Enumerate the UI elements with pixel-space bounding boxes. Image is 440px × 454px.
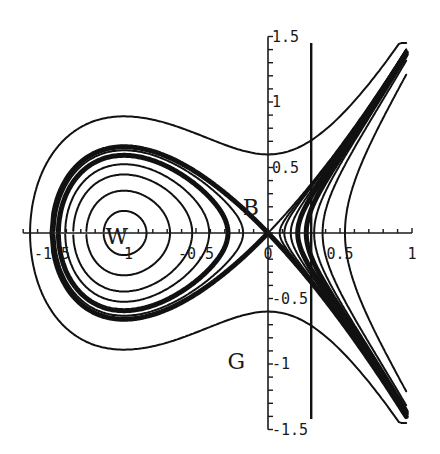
x-tick-label: 0.5 [326,245,353,263]
y-tick-label: -0.5 [272,290,308,308]
point-label-w: W [105,224,128,249]
x-tick-label: -1.5 [34,245,70,263]
x-tick-label: 0 [263,245,272,263]
y-tick-label: 1 [272,93,281,111]
x-tick-label: 1 [407,245,416,263]
separatrix-branch-up [268,49,406,233]
y-tick-label: 1.5 [272,28,299,46]
point-label-b: B [243,195,259,220]
axes: -1.5-1-0.500.511.510.5-0.5-1-1.5 [23,28,416,439]
y-tick-label: 0.5 [272,159,299,177]
phase-portrait: -1.5-1-0.500.511.510.5-0.5-1-1.5 WBG [0,0,440,454]
point-label-g: G [228,349,246,374]
y-tick-label: -1 [272,355,290,373]
y-tick-label: -1.5 [272,421,308,439]
x-tick-label: -0.5 [178,245,214,263]
point-labels: WBG [105,195,258,375]
